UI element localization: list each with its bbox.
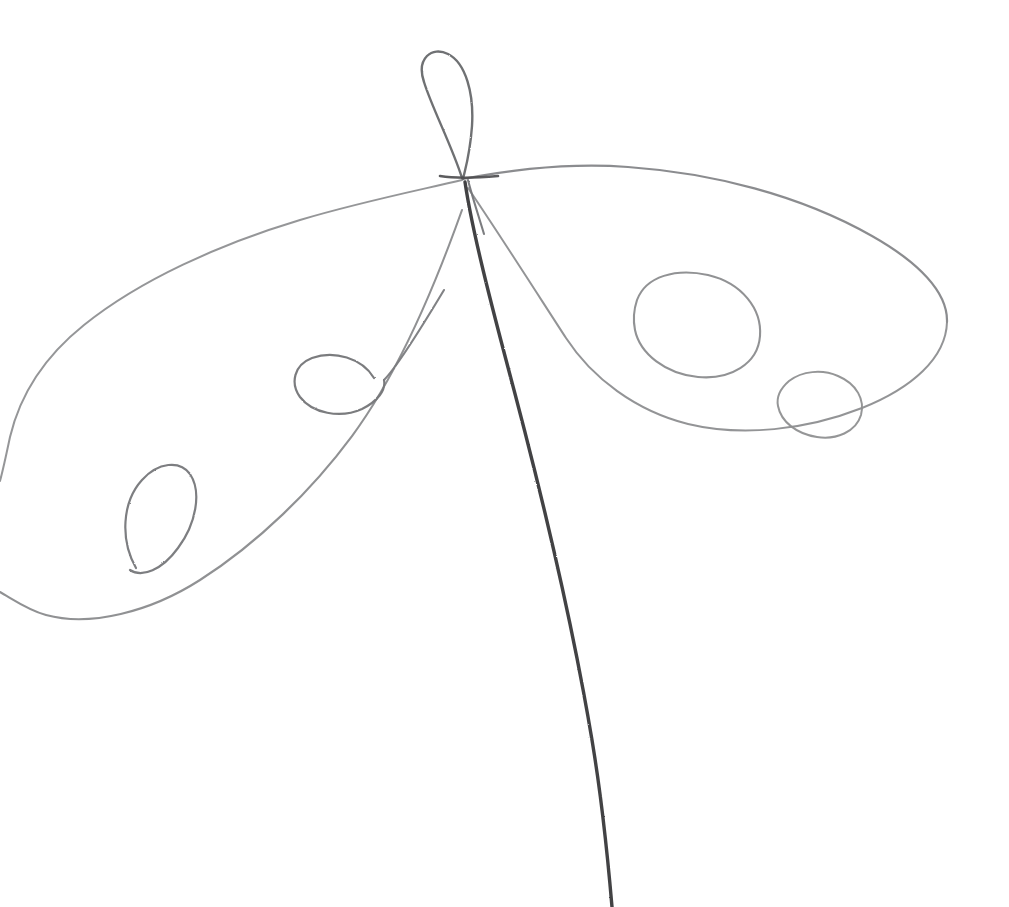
pencil-sketch [0,0,1009,907]
paper-background [0,0,1009,907]
drawing-canvas [0,0,1009,907]
